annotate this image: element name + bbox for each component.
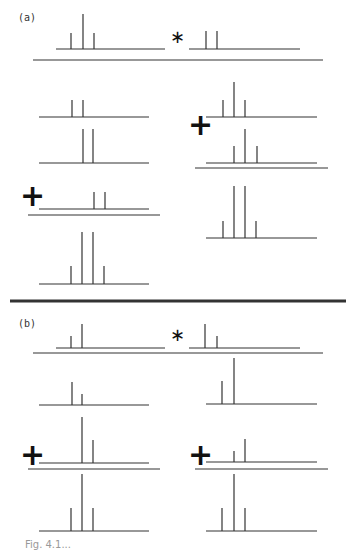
panel-label: (a) bbox=[18, 12, 36, 23]
spectrum-left-result bbox=[39, 474, 149, 531]
convolution-icon: ∗ bbox=[170, 28, 185, 46]
spectrum-right-2 bbox=[206, 439, 317, 462]
plus-icon: + bbox=[20, 181, 45, 211]
spectrum-left-1 bbox=[39, 382, 149, 405]
panel-a bbox=[28, 14, 328, 284]
panel-label: (b) bbox=[18, 318, 36, 329]
plus-icon: + bbox=[188, 110, 213, 140]
figure-caption: Fig. 4.1... bbox=[25, 539, 71, 550]
plus-icon: + bbox=[188, 440, 213, 470]
panel-b bbox=[28, 324, 328, 531]
convolution-icon: ∗ bbox=[170, 326, 185, 344]
spectrum-left-2 bbox=[39, 417, 149, 463]
spectrum-right-result bbox=[206, 186, 317, 238]
plus-icon: + bbox=[20, 440, 45, 470]
spectrum-left-3 bbox=[39, 192, 149, 209]
spectrum-input-right bbox=[189, 31, 300, 49]
spectrum-right-1 bbox=[206, 358, 317, 404]
spectrum-left-1 bbox=[39, 100, 149, 117]
spectrum-left-result bbox=[39, 232, 149, 284]
spectrum-right-2 bbox=[206, 129, 317, 163]
spectrum-left-2 bbox=[39, 129, 149, 163]
spectrum-input-left bbox=[56, 14, 165, 49]
spectrum-right-result bbox=[206, 474, 317, 531]
spectrum-input-right bbox=[189, 324, 300, 348]
spectrum-input-left bbox=[56, 324, 165, 348]
spectrum-right-1 bbox=[206, 82, 317, 117]
